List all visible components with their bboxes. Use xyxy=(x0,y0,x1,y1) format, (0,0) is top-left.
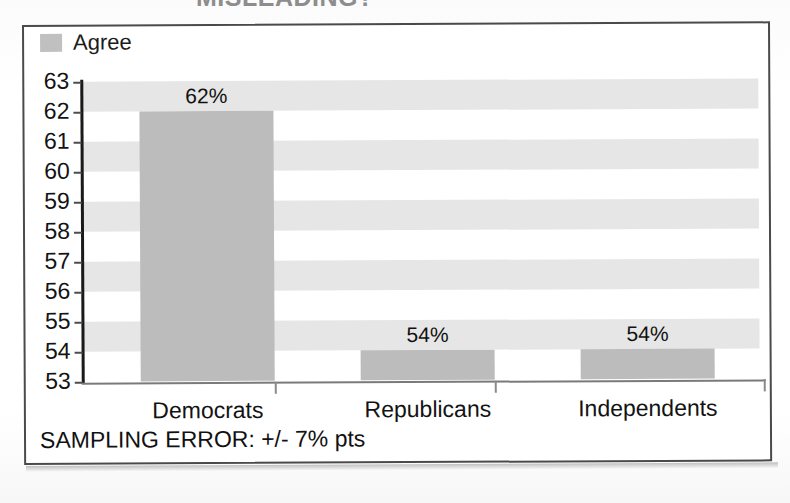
bar xyxy=(581,349,715,380)
x-axis-separator xyxy=(495,381,497,393)
bar-value-label: 54% xyxy=(360,323,494,348)
y-axis-tick-label: 63 xyxy=(44,68,70,95)
x-axis-separator xyxy=(764,379,766,391)
bar-value-label: 62% xyxy=(139,84,273,109)
y-axis-tick-label: 57 xyxy=(44,248,70,275)
y-axis-tick-label: 59 xyxy=(44,188,70,215)
chart-legend: Agree xyxy=(40,31,132,53)
bar xyxy=(361,350,495,381)
sampling-error-note: SAMPLING ERROR: +/- 7% pts xyxy=(40,425,365,454)
legend-label-agree: Agree xyxy=(73,31,132,53)
headline-clipped: MISLEADING? xyxy=(0,0,790,11)
y-axis-tick-label: 53 xyxy=(45,368,71,395)
x-axis-category-label: Republicans xyxy=(365,396,492,424)
y-axis-tick-label: 56 xyxy=(45,278,71,305)
x-axis-separator xyxy=(275,382,277,394)
y-axis-tick-label: 61 xyxy=(44,128,70,155)
bar-value-label: 54% xyxy=(580,322,714,347)
plot-area: 6362616059585756555453 62%54%54% Democra… xyxy=(80,78,759,381)
bar xyxy=(139,111,274,382)
y-axis-tick-label: 60 xyxy=(44,158,70,185)
headline-text: MISLEADING? xyxy=(196,0,374,11)
y-axis-tick-label: 54 xyxy=(45,338,71,365)
x-axis-category-label: Independents xyxy=(578,395,718,423)
x-axis-category-label: Democrats xyxy=(152,397,263,425)
y-axis-tick-label: 58 xyxy=(44,218,70,245)
chart-frame: Agree 6362616059585756555453 62%54%54% D… xyxy=(22,21,772,465)
legend-swatch-icon xyxy=(40,34,62,52)
bar-series: 62%54%54% xyxy=(80,78,759,381)
y-axis-tick-label: 55 xyxy=(45,308,71,335)
y-axis-tick-label: 62 xyxy=(44,98,70,125)
